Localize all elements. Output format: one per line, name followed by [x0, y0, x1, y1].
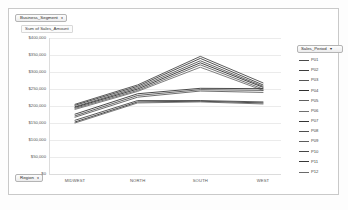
legend-item-label: P08	[311, 129, 318, 133]
legend-swatch-icon	[299, 161, 309, 162]
legend-swatch-icon	[299, 111, 309, 112]
legend-swatch-icon	[299, 100, 309, 101]
legend-item-P01[interactable]: P01	[297, 55, 343, 65]
series-lines	[49, 38, 281, 174]
y-axis-tick-label: $0	[41, 172, 46, 176]
legend-swatch-icon	[299, 90, 309, 91]
legend-item-P07[interactable]: P07	[297, 116, 343, 126]
legend-item-label: P11	[311, 160, 318, 164]
x-axis-tick-label: NORTH	[130, 179, 145, 183]
legend-title-button[interactable]: Sales_Period ▾	[297, 45, 343, 53]
legend-item-P08[interactable]: P08	[297, 126, 343, 136]
y-axis-tick-label: $200,000	[29, 104, 46, 108]
legend-swatch-icon	[299, 131, 309, 132]
legend-item-P06[interactable]: P06	[297, 106, 343, 116]
chevron-down-icon: ▾	[330, 47, 332, 51]
legend-swatch-icon	[299, 172, 309, 173]
plot-area: $0$50,000$100,000$150,000$200,000$250,00…	[49, 38, 281, 174]
y-axis-tick-label: $350,000	[29, 53, 46, 57]
value-field-label: Sum of Sales_Amount	[21, 25, 73, 33]
legend-item-label: P06	[311, 109, 318, 113]
legend-swatch-icon	[299, 151, 309, 152]
legend-item-list: P01P02P03P04P05P06P07P08P09P10P11P12	[297, 55, 343, 177]
y-axis-tick-label: $150,000	[29, 121, 46, 125]
legend-item-label: P01	[311, 58, 318, 62]
legend-item-P02[interactable]: P02	[297, 65, 343, 75]
x-axis-tick-label: WEST	[257, 179, 270, 183]
legend-swatch-icon	[299, 80, 309, 81]
legend: Sales_Period ▾ P01P02P03P04P05P06P07P08P…	[297, 45, 343, 177]
y-axis-tick-label: $400,000	[29, 36, 46, 40]
region-field-label: Region	[20, 176, 34, 180]
legend-item-P12[interactable]: P12	[297, 167, 343, 177]
legend-item-label: P10	[311, 150, 318, 154]
legend-item-P04[interactable]: P04	[297, 86, 343, 96]
legend-item-P11[interactable]: P11	[297, 157, 343, 167]
legend-title-label: Sales_Period	[301, 47, 327, 51]
legend-item-label: P12	[311, 170, 318, 174]
legend-swatch-icon	[299, 70, 309, 71]
gridline	[49, 174, 281, 175]
legend-item-label: P03	[311, 78, 318, 82]
legend-item-label: P07	[311, 119, 318, 123]
business-segment-filter-label: Business_Segment	[20, 16, 58, 20]
legend-swatch-icon	[299, 121, 309, 122]
pivot-chart-window: Business_Segment ▾ Sum of Sales_Amount R…	[0, 0, 348, 210]
legend-item-P03[interactable]: P03	[297, 75, 343, 85]
legend-swatch-icon	[299, 141, 309, 142]
series-line-P10	[75, 101, 263, 121]
y-axis-tick-label: $50,000	[31, 155, 46, 159]
legend-item-P09[interactable]: P09	[297, 137, 343, 147]
series-line-P03	[75, 61, 263, 107]
legend-item-label: P04	[311, 89, 318, 93]
legend-item-label: P05	[311, 99, 318, 103]
y-axis-tick-label: $100,000	[29, 138, 46, 142]
legend-item-P05[interactable]: P05	[297, 96, 343, 106]
y-axis-tick-label: $250,000	[29, 87, 46, 91]
chart-frame: Business_Segment ▾ Sum of Sales_Amount R…	[8, 8, 339, 195]
y-axis-tick-label: $300,000	[29, 70, 46, 74]
legend-item-label: P09	[311, 139, 318, 143]
region-field-button[interactable]: Region ▾	[15, 174, 43, 182]
legend-swatch-icon	[299, 60, 309, 61]
x-axis-tick-label: MIDWEST	[65, 179, 86, 183]
chevron-down-icon: ▾	[61, 17, 63, 20]
chevron-down-icon: ▾	[37, 177, 39, 180]
legend-item-label: P02	[311, 68, 318, 72]
x-axis-tick-label: SOUTH	[193, 179, 208, 183]
business-segment-filter-button[interactable]: Business_Segment ▾	[15, 14, 67, 22]
legend-item-P10[interactable]: P10	[297, 147, 343, 157]
